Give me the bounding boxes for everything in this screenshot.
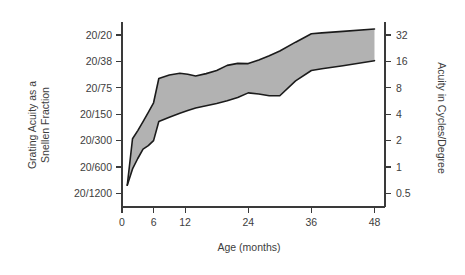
right-tick-label: 0.5 <box>396 187 411 199</box>
x-tick-label: 48 <box>369 216 381 228</box>
bottom-axis-title: Age (months) <box>217 241 280 253</box>
right-tick-label: 1 <box>396 161 402 173</box>
left-tick-label: 20/1200 <box>74 187 112 199</box>
right-tick-label: 16 <box>396 55 408 67</box>
left-tick-label: 20/600 <box>80 161 112 173</box>
right-tick-label: 2 <box>396 134 402 146</box>
right-tick-label: 32 <box>396 29 408 41</box>
left-axis-title-line1: Grating Acuity as a <box>26 81 38 169</box>
plot-area <box>122 22 385 207</box>
left-axis-title: Grating Acuity as a Snellen Fraction <box>26 81 51 169</box>
x-tick-label: 12 <box>179 216 191 228</box>
x-tick-label: 24 <box>242 216 254 228</box>
right-axis-title: Acuity in Cycles/Degree <box>436 62 448 174</box>
x-tick-label: 6 <box>151 216 157 228</box>
x-tick-label: 0 <box>119 216 125 228</box>
left-tick-label: 20/75 <box>86 82 112 94</box>
right-tick-label: 4 <box>396 108 402 120</box>
left-tick-label: 20/150 <box>80 108 112 120</box>
right-tick-label: 8 <box>396 82 402 94</box>
x-tick-label: 36 <box>306 216 318 228</box>
acuity-development-chart: 20/2020/3820/7520/15020/30020/60020/1200… <box>0 0 465 275</box>
left-tick-label: 20/300 <box>80 134 112 146</box>
left-tick-label: 20/20 <box>86 29 112 41</box>
left-tick-label: 20/38 <box>86 55 112 67</box>
left-axis-title-line2: Snellen Fraction <box>39 87 51 163</box>
